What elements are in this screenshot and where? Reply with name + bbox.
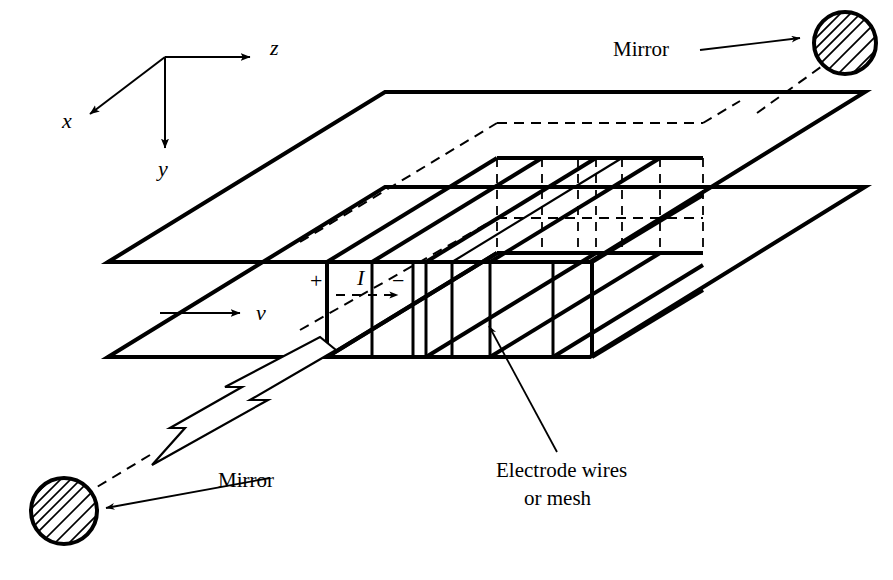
top-plate-outline: [108, 92, 865, 262]
velocity-label: v: [256, 300, 266, 325]
mirror-bottom-label: Mirror: [218, 468, 274, 492]
bottom-plate: [108, 187, 865, 357]
top-plate: [108, 92, 865, 262]
x-axis-label: x: [61, 108, 72, 133]
x-axis-arrow: [90, 57, 165, 114]
current-label: I: [356, 265, 366, 290]
beam-to-bottom-mirror-dashed: [92, 455, 150, 490]
electrode-receding-bottom: [327, 253, 703, 357]
hidden-top-back-diagonal: [300, 123, 497, 242]
electrode-callout-line2: or mesh: [524, 486, 592, 510]
electrode-callout-arrow: [489, 326, 557, 452]
z-axis-label: z: [269, 35, 279, 60]
coordinate-axes: z x y: [61, 35, 279, 181]
hidden-top-extension: [703, 101, 740, 123]
diagram-canvas: z x y: [0, 0, 893, 580]
velocity-indicator: v: [160, 300, 266, 325]
electrode-recede-bot-4: [553, 265, 703, 357]
minus-sign-label: −: [392, 268, 404, 293]
figure-root: z x y: [0, 0, 893, 580]
y-axis-label: y: [156, 156, 168, 181]
electrode-polarity-labels: + I −: [310, 265, 404, 295]
hidden-back-edges: [300, 101, 740, 330]
bottom-plate-outline: [108, 187, 865, 357]
block-top-left-receding-edge: [327, 158, 497, 262]
mirror-bottom-left-group: Mirror: [24, 455, 274, 558]
mirror-top-leader-arrow: [700, 38, 800, 50]
electrode-callout-line1: Electrode wires: [496, 458, 627, 482]
mirror-top-right-group: Mirror: [613, 0, 892, 113]
mirror-top-label: Mirror: [613, 37, 669, 61]
beam-to-top-mirror-dashed: [757, 64, 825, 113]
electrode-recede-top-2: [426, 158, 596, 262]
plus-sign-label: +: [310, 268, 322, 293]
